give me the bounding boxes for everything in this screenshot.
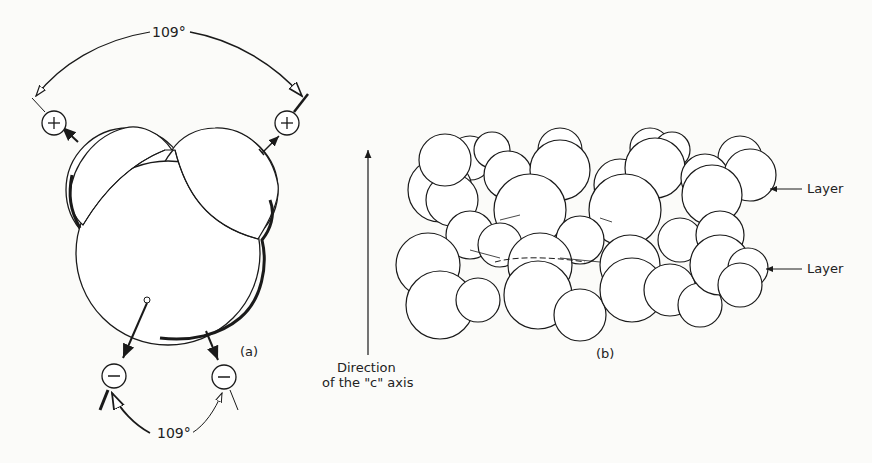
- negative-charge-right: [206, 331, 238, 410]
- panel-b-label: (b): [596, 347, 614, 361]
- ice-lattice: [396, 128, 776, 341]
- positive-charge-left: [32, 98, 78, 142]
- layer-label-bottom: Layer: [807, 262, 843, 276]
- positive-charge-right: [259, 94, 308, 155]
- figure-canvas: [0, 0, 872, 463]
- axis-label-line2: of the "c" axis: [322, 376, 413, 390]
- layer-label-top: Layer: [807, 182, 843, 196]
- water-molecule: [66, 127, 278, 345]
- bottom-angle-arc: [112, 393, 150, 433]
- top-angle-arc: [36, 32, 150, 96]
- top-angle-label: 109°: [150, 25, 188, 39]
- bottom-angle-label: 109°: [155, 426, 193, 440]
- axis-label-line1: Direction: [337, 361, 396, 375]
- panel-a-label: (a): [240, 345, 258, 359]
